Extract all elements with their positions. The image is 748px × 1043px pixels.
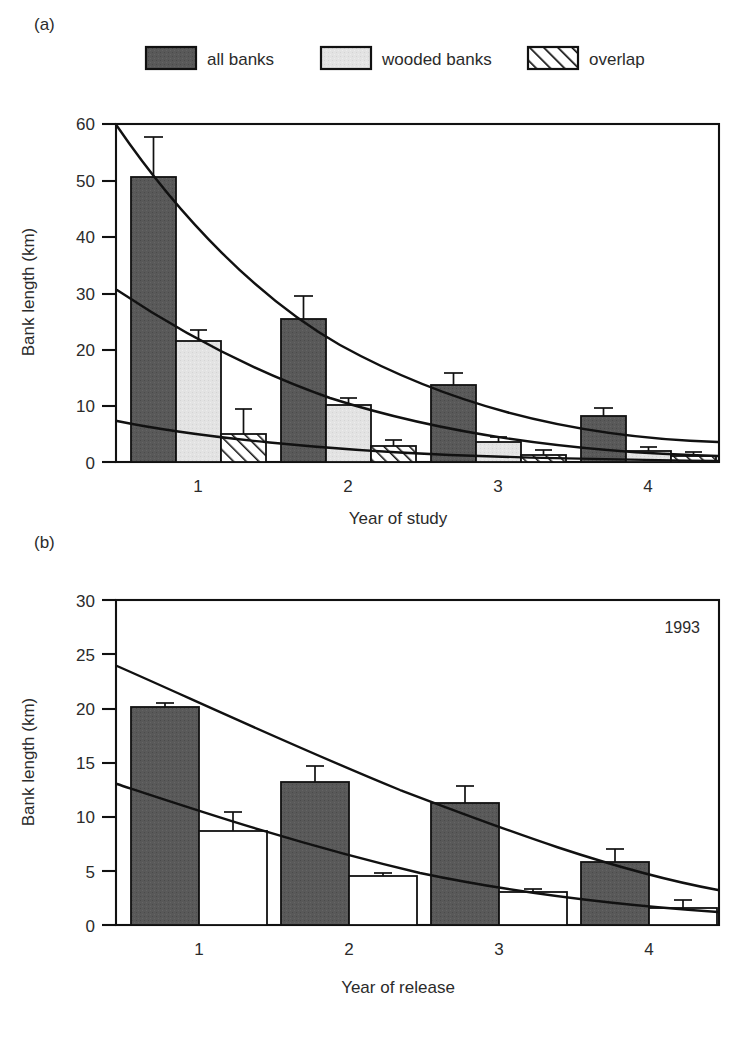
- panel-a-ytick-20: 20: [76, 341, 95, 360]
- errorbar-b-all-3: [456, 786, 474, 803]
- panel-b-y-axis-title: Bank length (km): [19, 698, 38, 827]
- panel-b-ytick-20: 20: [76, 700, 95, 719]
- panel-b-xtick-3: 3: [494, 940, 503, 959]
- errorbar-a-overlap-1: [235, 409, 252, 434]
- figure-container: (a) all banks wooded banks overlap Bank …: [0, 0, 748, 1043]
- panel-b-y-ticks: [102, 600, 116, 925]
- panel-a-ytick-60: 60: [76, 115, 95, 134]
- panel-a-ytick-10: 10: [76, 397, 95, 416]
- errorbar-b-wooded-4: [674, 900, 692, 908]
- errorbar-a-all-1: [144, 137, 163, 177]
- panel-a-bars: [131, 177, 716, 462]
- bar-a-wooded-banks-2: [326, 405, 371, 462]
- legend-label-wooded-banks: wooded banks: [381, 50, 492, 69]
- panel-b-label: (b): [34, 533, 55, 552]
- panel-a-label: (a): [34, 15, 55, 34]
- legend-item-overlap: overlap: [528, 47, 645, 69]
- panel-b-ytick-30: 30: [76, 592, 95, 611]
- legend: all banks wooded banks overlap: [146, 47, 645, 69]
- bar-b-wooded-banks-1: [199, 831, 267, 925]
- panel-b-xtick-1: 1: [194, 940, 203, 959]
- panel-a-ytick-0: 0: [86, 454, 95, 473]
- panel-a-y-tick-labels: 60 50 40 30 20 10 0: [76, 115, 95, 473]
- legend-item-wooded-banks: wooded banks: [321, 47, 492, 69]
- panel-b-annotation-year: 1993: [664, 619, 700, 636]
- legend-swatch-overlap: [528, 47, 578, 69]
- bar-a-all-banks-1: [131, 177, 176, 462]
- panel-a-y-ticks: [102, 124, 116, 462]
- bar-b-wooded-banks-2: [349, 876, 417, 925]
- errorbar-b-all-2: [306, 766, 324, 782]
- bar-b-all-banks-1: [131, 707, 199, 925]
- legend-swatch-wooded-banks: [321, 47, 371, 69]
- panel-b-y-tick-labels: 30 25 20 15 10 5 0: [76, 592, 95, 936]
- panel-b-ytick-0: 0: [86, 917, 95, 936]
- legend-label-all-banks: all banks: [207, 50, 274, 69]
- panel-a-xtick-1: 1: [193, 477, 202, 496]
- bar-a-wooded-banks-3: [476, 442, 521, 462]
- errorbar-b-all-4: [606, 849, 624, 862]
- bar-a-wooded-banks-1: [176, 341, 221, 462]
- panel-b-ytick-25: 25: [76, 646, 95, 665]
- panel-b-xtick-2: 2: [344, 940, 353, 959]
- errorbar-a-all-4: [594, 408, 613, 416]
- errorbar-a-all-3: [444, 373, 463, 385]
- panel-b-ytick-10: 10: [76, 808, 95, 827]
- panel-a-x-axis-title: Year of study: [349, 509, 448, 528]
- bar-b-all-banks-3: [431, 803, 499, 925]
- panel-b-x-tick-labels: 1 2 3 4: [194, 940, 653, 959]
- legend-label-overlap: overlap: [589, 50, 645, 69]
- panel-b-xtick-4: 4: [644, 940, 653, 959]
- panel-a-xtick-3: 3: [493, 477, 502, 496]
- panel-a-error-bars: [144, 137, 702, 456]
- panel-b-x-axis-title: Year of release: [341, 978, 455, 997]
- figure-svg: (a) all banks wooded banks overlap Bank …: [0, 0, 748, 1043]
- panel-b-ytick-15: 15: [76, 754, 95, 773]
- bar-a-all-banks-4: [581, 416, 626, 462]
- bar-a-all-banks-2: [281, 319, 326, 462]
- legend-swatch-all-banks: [146, 47, 196, 69]
- panel-a-ytick-30: 30: [76, 285, 95, 304]
- errorbar-a-all-2: [294, 296, 313, 319]
- panel-a-ytick-50: 50: [76, 172, 95, 191]
- panel-a-ytick-40: 40: [76, 228, 95, 247]
- panel-a-x-tick-labels: 1 2 3 4: [193, 477, 652, 496]
- panel-a-xtick-2: 2: [343, 477, 352, 496]
- legend-item-all-banks: all banks: [146, 47, 274, 69]
- panel-a-y-axis-title: Bank length (km): [19, 228, 38, 357]
- panel-b-ytick-5: 5: [86, 863, 95, 882]
- panel-a-xtick-4: 4: [643, 477, 652, 496]
